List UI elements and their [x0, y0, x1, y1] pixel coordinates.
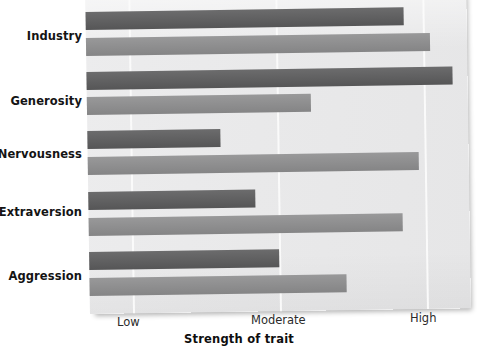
category-label-extraversion: Extraversion	[0, 207, 82, 219]
bar-nervousness-light	[88, 152, 419, 175]
bar-aggression-dark	[89, 249, 279, 270]
bars-layer	[85, 0, 471, 314]
xtick-label-moderate: Moderate	[251, 315, 306, 327]
xtick-label-low: Low	[117, 317, 140, 329]
category-label-industry: Industry	[27, 31, 82, 43]
xtick-label-high: High	[410, 313, 436, 325]
bar-generosity-dark	[86, 67, 452, 90]
category-label-nervousness: Nervousness	[0, 149, 82, 161]
plot-area	[85, 0, 471, 314]
bar-aggression-light	[89, 274, 346, 296]
category-axis-labels: Industry Generosity Nervousness Extraver…	[0, 0, 86, 353]
bar-chart-figure: Industry Generosity Nervousness Extraver…	[0, 0, 478, 353]
category-label-generosity: Generosity	[10, 96, 82, 108]
bar-nervousness-dark	[87, 129, 220, 149]
bar-industry-light	[86, 33, 430, 56]
bar-generosity-light	[87, 94, 311, 115]
category-label-aggression: Aggression	[8, 271, 82, 283]
bar-industry-dark	[86, 7, 404, 30]
bar-extraversion-light	[89, 213, 403, 236]
bar-extraversion-dark	[88, 190, 255, 210]
x-axis-title: Strength of trait	[0, 332, 478, 346]
